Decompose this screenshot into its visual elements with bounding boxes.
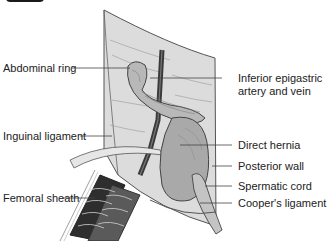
label-inferior-epigastric-2: artery and vein: [238, 85, 311, 97]
label-direct-hernia: Direct hernia: [238, 139, 300, 151]
label-inguinal-ligament: Inguinal ligament: [3, 130, 86, 142]
label-spermatic-cord: Spermatic cord: [238, 180, 312, 192]
label-inferior-epigastric-1: Inferior epigastric: [238, 72, 322, 84]
label-abdominal-ring: Abdominal ring: [3, 62, 76, 74]
label-coopers-ligament: Cooper's ligament: [238, 197, 326, 209]
label-femoral-sheath: Femoral sheath: [3, 192, 79, 204]
label-posterior-wall: Posterior wall: [238, 160, 304, 172]
